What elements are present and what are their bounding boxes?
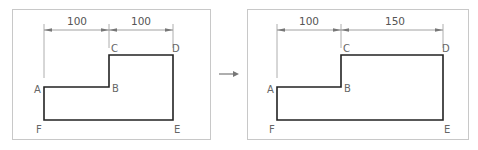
arrowhead-icon bbox=[101, 28, 109, 31]
dimension-label-ab: 100 bbox=[299, 15, 319, 27]
point-label-a: A bbox=[34, 84, 41, 95]
arrowhead-icon bbox=[165, 28, 173, 31]
arrowhead-icon bbox=[435, 28, 443, 31]
arrowhead-icon bbox=[277, 28, 285, 31]
l-shape-outline bbox=[277, 55, 443, 120]
dimension-label-cd: 100 bbox=[131, 15, 151, 27]
l-shape-outline bbox=[44, 55, 173, 120]
arrowhead-icon bbox=[109, 28, 117, 31]
dimension-label-cd: 150 bbox=[385, 15, 405, 27]
arrowhead-icon bbox=[44, 28, 52, 31]
point-label-e: E bbox=[444, 124, 450, 135]
point-label-f: F bbox=[36, 124, 42, 135]
point-label-d: D bbox=[172, 43, 180, 54]
point-label-c: C bbox=[343, 43, 350, 54]
point-label-d: D bbox=[442, 43, 450, 54]
point-label-e: E bbox=[174, 124, 180, 135]
diagram-canvas: 100 100 A B C D E F 100 150 A B C D E F bbox=[0, 0, 478, 150]
panel-before: 100 100 A B C D E F bbox=[13, 10, 211, 140]
point-label-b: B bbox=[112, 83, 119, 94]
point-label-b: B bbox=[344, 83, 351, 94]
panel-after: 100 150 A B C D E F bbox=[248, 10, 469, 140]
point-label-c: C bbox=[111, 43, 118, 54]
arrow-right-icon bbox=[219, 71, 239, 77]
dimension-label-ab: 100 bbox=[67, 15, 87, 27]
point-label-f: F bbox=[269, 124, 275, 135]
arrowhead-icon bbox=[333, 28, 341, 31]
arrowhead-icon bbox=[341, 28, 349, 31]
point-label-a: A bbox=[267, 84, 274, 95]
